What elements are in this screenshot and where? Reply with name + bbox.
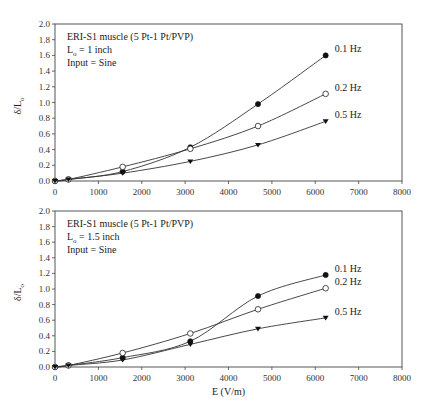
y-tick-label: 0.2 <box>39 160 50 170</box>
x-tick-label: 4000 <box>220 373 239 383</box>
y-axis-label-main: δ/L <box>12 287 23 301</box>
marker-open-circle <box>188 331 194 337</box>
y-tick-label: 0.2 <box>39 346 50 356</box>
y-tick-label: 2.0 <box>39 206 51 216</box>
y-tick-label: 0.6 <box>39 315 51 325</box>
y-tick-label: 1.2 <box>39 268 50 278</box>
series-line-0_2-Hz <box>55 288 326 367</box>
y-axis-label-main: δ/L <box>12 101 23 115</box>
x-tick-label: 3000 <box>176 187 195 197</box>
series-label: 0.2 Hz <box>335 276 362 287</box>
y-tick-label: 1.0 <box>39 284 51 294</box>
y-tick-label: 1.6 <box>39 237 51 247</box>
x-tick-label: 5000 <box>263 373 282 383</box>
y-tick-label: 0.0 <box>39 176 51 186</box>
x-tick-label: 1000 <box>89 373 108 383</box>
annotation-line-1: ERI-S1 muscle (5 Pt-1 Pt/PVP) <box>67 218 193 230</box>
y-tick-label: 0.6 <box>39 129 51 139</box>
annotation-line-2: Lo = 1 inch <box>67 44 112 58</box>
annotation-rest: = 1 inch <box>77 44 112 55</box>
y-tick-label: 0.4 <box>39 331 51 341</box>
y-tick-label: 1.4 <box>39 66 51 76</box>
series-label: 0.1 Hz <box>335 263 362 274</box>
x-tick-label: 2000 <box>133 187 152 197</box>
y-tick-label: 0.4 <box>39 145 51 155</box>
series-label: 0.5 Hz <box>335 306 362 317</box>
marker-open-circle <box>255 123 261 129</box>
y-tick-label: 1.8 <box>39 222 51 232</box>
y-tick-label: 2.0 <box>39 19 51 29</box>
series-line-0_1-Hz <box>55 275 326 367</box>
annotation-line-3: Input = Sine <box>67 57 117 68</box>
y-axis-label-sub: o <box>18 97 26 101</box>
x-tick-label: 0 <box>53 187 58 197</box>
x-tick-label: 5000 <box>263 187 282 197</box>
y-tick-label: 0.8 <box>39 300 51 310</box>
figure: 0.00.20.40.60.81.01.21.41.61.82.00100020… <box>0 0 430 416</box>
series-label: 0.2 Hz <box>335 82 362 93</box>
y-tick-label: 0.0 <box>39 362 51 372</box>
annotation-line-3: Input = Sine <box>67 244 117 255</box>
marker-open-circle <box>120 164 126 170</box>
marker-open-circle <box>120 350 126 356</box>
x-tick-label: 7000 <box>350 373 369 383</box>
series-label: 0.1 Hz <box>335 43 362 54</box>
x-tick-label: 8000 <box>393 373 412 383</box>
marker-open-circle <box>188 146 194 152</box>
annotation-line-2: Lo = 1.5 inch <box>67 231 119 245</box>
x-axis-label: E (V/m) <box>212 386 245 398</box>
x-tick-label: 8000 <box>393 187 412 197</box>
marker-open-circle <box>323 285 329 291</box>
annotation-rest: = 1.5 inch <box>77 231 120 242</box>
y-tick-label: 1.2 <box>39 82 50 92</box>
y-tick-label: 0.8 <box>39 113 51 123</box>
chart-bottom: 0.00.20.40.60.81.01.21.41.61.82.00100020… <box>12 206 412 398</box>
marker-filled-circle <box>255 101 260 106</box>
series-line-0_2-Hz <box>55 94 326 181</box>
x-tick-label: 4000 <box>220 187 239 197</box>
x-tick-label: 6000 <box>306 187 325 197</box>
marker-filled-circle <box>323 272 328 277</box>
x-tick-label: 3000 <box>176 373 195 383</box>
x-tick-label: 6000 <box>306 373 325 383</box>
annotation-line-1: ERI-S1 muscle (5 Pt-1 Pt/PVP) <box>67 31 193 43</box>
y-tick-label: 1.4 <box>39 253 51 263</box>
x-tick-label: 7000 <box>350 187 369 197</box>
y-tick-label: 1.0 <box>39 98 51 108</box>
chart-top: 0.00.20.40.60.81.01.21.41.61.82.00100020… <box>12 19 412 197</box>
y-tick-label: 1.8 <box>39 35 51 45</box>
marker-open-circle <box>323 91 329 97</box>
series-label: 0.5 Hz <box>335 109 362 120</box>
x-tick-label: 1000 <box>89 187 108 197</box>
marker-filled-circle <box>255 293 260 298</box>
x-tick-label: 0 <box>53 373 58 383</box>
y-tick-label: 1.6 <box>39 50 51 60</box>
y-axis-label-sub: o <box>18 283 26 287</box>
y-axis-label: δ/Lo <box>12 97 26 115</box>
marker-open-circle <box>255 306 261 312</box>
y-axis-label: δ/Lo <box>12 283 26 301</box>
x-tick-label: 2000 <box>133 373 152 383</box>
marker-filled-circle <box>323 53 328 58</box>
